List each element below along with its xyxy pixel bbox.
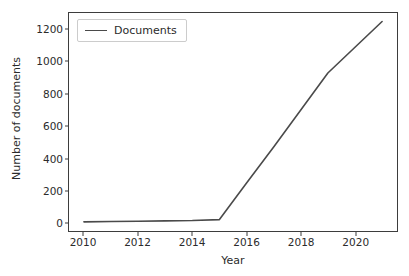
x-axis-tick-marks <box>68 232 398 238</box>
legend-label-documents: Documents <box>114 25 177 36</box>
series-lines <box>69 13 397 231</box>
x-tick-mark <box>355 232 356 236</box>
x-axis-tick-labels: 201020122014201620182020 <box>68 236 398 252</box>
y-tick-label: 1000 <box>36 55 63 67</box>
y-tick-label: 600 <box>43 120 63 132</box>
x-tick-mark <box>192 232 193 236</box>
y-axis-tick-labels: 020040060080010001200 <box>30 12 63 232</box>
x-tick-mark <box>301 232 302 236</box>
x-tick-mark <box>83 232 84 236</box>
series-line-documents <box>84 22 382 222</box>
x-tick-mark <box>137 232 138 236</box>
y-tick-label: 800 <box>43 88 63 100</box>
chart-legend: Documents <box>77 19 187 42</box>
legend-line-swatch-documents <box>85 30 107 31</box>
x-tick-mark <box>246 232 247 236</box>
y-tick-label: 200 <box>43 185 63 197</box>
x-axis-title: Year <box>68 254 398 267</box>
chart-figure: 020040060080010001200 201020122014201620… <box>0 0 409 276</box>
y-tick-label: 1200 <box>36 23 63 35</box>
plot-area: Documents <box>68 12 398 232</box>
y-axis-title: Number of documents <box>10 9 23 229</box>
y-tick-label: 400 <box>43 153 63 165</box>
